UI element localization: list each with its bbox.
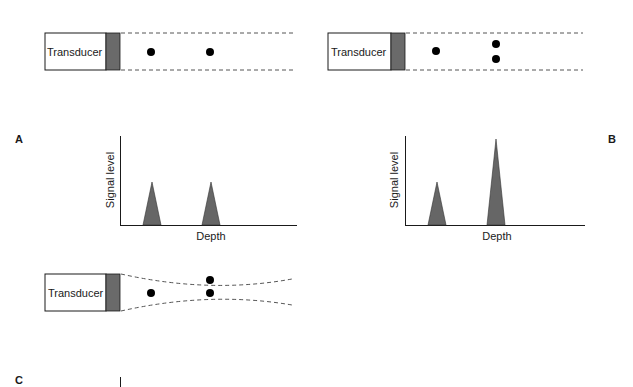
reflector-dot xyxy=(432,47,440,55)
transducer-face xyxy=(106,33,120,70)
transducer-face xyxy=(106,274,120,311)
panel-b-signal-plot: Signal level Depth xyxy=(388,136,585,242)
echo-peak-merged xyxy=(487,139,505,225)
y-axis-label: Signal level xyxy=(104,152,116,208)
panel-b-transducer-diagram: Transducer xyxy=(328,33,583,70)
echo-peak xyxy=(428,182,446,225)
echo-peak xyxy=(202,182,220,225)
transducer-label: Transducer xyxy=(47,46,103,58)
panel-label-c: C xyxy=(15,374,23,386)
reflector-dot xyxy=(492,55,500,63)
reflector-dot xyxy=(147,289,155,297)
panel-a-signal-plot: Signal level Depth xyxy=(104,136,297,242)
reflector-dot xyxy=(492,40,500,48)
transducer-label: Transducer xyxy=(331,46,387,58)
panel-label-a: A xyxy=(15,133,23,145)
x-axis-label: Depth xyxy=(196,230,225,242)
transducer-face xyxy=(391,33,405,70)
panel-label-b: B xyxy=(608,133,616,145)
reflector-dot xyxy=(206,48,214,56)
ultrasound-resolution-figure: Transducer Transducer A B Signal level D… xyxy=(0,0,633,387)
echo-peak xyxy=(143,182,161,225)
x-axis-label: Depth xyxy=(482,230,511,242)
beam-edge-bottom xyxy=(121,299,292,311)
panel-a-transducer-diagram: Transducer xyxy=(45,33,295,70)
y-axis-label: Signal level xyxy=(388,152,400,208)
panel-c-transducer-diagram: Transducer xyxy=(45,274,292,311)
reflector-dot xyxy=(206,276,214,284)
reflector-dot xyxy=(147,48,155,56)
transducer-label: Transducer xyxy=(48,287,104,299)
reflector-dot xyxy=(206,289,214,297)
